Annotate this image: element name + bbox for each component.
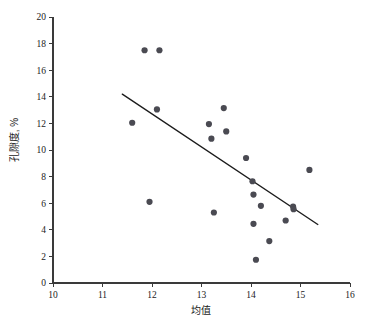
data-point (141, 47, 147, 53)
data-point (249, 178, 255, 184)
scatter-chart: 02468101214161820 10111213141516 均值 孔隙度,… (0, 0, 369, 325)
data-point (154, 106, 160, 112)
y-tick-label: 18 (37, 39, 47, 49)
data-point (223, 128, 229, 134)
data-point (290, 206, 296, 212)
data-point (250, 191, 256, 197)
data-point (306, 167, 312, 173)
x-tick-label: 12 (147, 290, 157, 300)
y-axis-title: 孔隙度, % (8, 118, 20, 163)
data-point (283, 217, 289, 223)
data-point (253, 257, 259, 263)
y-tick-label: 12 (37, 119, 47, 129)
y-tick-label: 20 (37, 12, 47, 22)
data-point (211, 209, 217, 215)
x-tick-label: 13 (197, 290, 207, 300)
y-axis: 02468101214161820 (37, 12, 54, 288)
trend-line (122, 94, 318, 224)
data-point (156, 47, 162, 53)
plot-area: 02468101214161820 10111213141516 均值 孔隙度,… (0, 0, 369, 325)
data-points-group (129, 47, 312, 263)
x-tick-label: 14 (246, 290, 256, 300)
data-point (266, 238, 272, 244)
x-tick-label: 11 (98, 290, 107, 300)
data-point (206, 121, 212, 127)
data-point (250, 221, 256, 227)
y-tick-label: 14 (37, 92, 47, 102)
x-axis: 10111213141516 (48, 283, 355, 300)
data-point (208, 136, 214, 142)
y-tick-label: 4 (41, 225, 46, 235)
data-point (146, 199, 152, 205)
x-tick-label: 15 (296, 290, 306, 300)
y-tick-label: 2 (41, 252, 46, 262)
y-tick-label: 10 (37, 145, 47, 155)
x-tick-label: 10 (48, 290, 58, 300)
data-point (129, 120, 135, 126)
y-tick-label: 6 (41, 199, 46, 209)
data-point (258, 203, 264, 209)
x-axis-title: 均值 (191, 304, 211, 316)
data-point (243, 155, 249, 161)
regression-line (122, 94, 318, 224)
y-tick-label: 0 (41, 278, 46, 288)
y-tick-label: 8 (41, 172, 46, 182)
x-tick-label: 16 (345, 290, 355, 300)
y-tick-label: 16 (37, 66, 47, 76)
data-point (221, 105, 227, 111)
